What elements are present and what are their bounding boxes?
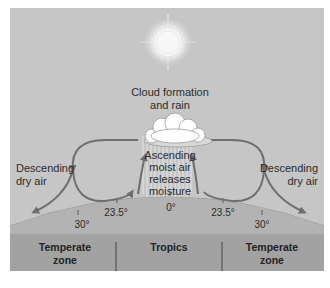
cloud-formation-label-2: and rain: [150, 99, 190, 111]
latitude-right-30: 30°: [254, 219, 269, 230]
zone-left-label-1: Temperate: [39, 241, 91, 253]
ascending-label-1: Ascending: [144, 149, 195, 161]
left-descending-label-2: dry air: [16, 175, 47, 187]
diagram-frame: Cloud formation and rain Ascending moist…: [10, 8, 324, 271]
cloud-formation-label: Cloud formation: [131, 86, 209, 98]
left-descending-label-1: Descending: [16, 162, 74, 174]
latitude-left-23: 23.5°: [104, 207, 127, 218]
atmospheric-circulation-diagram: Cloud formation and rain Ascending moist…: [10, 8, 324, 271]
ascending-label-3: releases: [149, 173, 191, 185]
zone-left-label-2: zone: [53, 254, 77, 266]
latitude-right-23: 23.5°: [211, 207, 234, 218]
right-descending-label-1: Descending: [260, 162, 318, 174]
zone-right-label-1: Temperate: [246, 241, 298, 253]
ascending-label-2: moist air: [149, 161, 191, 173]
latitude-equator: 0°: [166, 202, 176, 213]
zone-right-label-2: zone: [260, 254, 284, 266]
zone-center-label: Tropics: [150, 241, 188, 253]
right-descending-label-2: dry air: [287, 175, 318, 187]
ascending-label-4: moisture: [149, 185, 191, 197]
latitude-left-30: 30°: [74, 219, 89, 230]
